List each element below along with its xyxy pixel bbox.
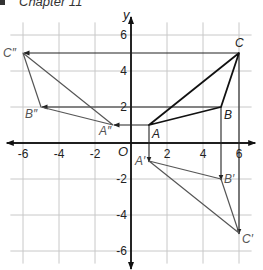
y-tick-label: 2 (120, 100, 127, 114)
y-tick-label: 4 (120, 64, 127, 78)
axes (7, 17, 255, 269)
vertex-label: B (224, 108, 232, 122)
y-tick-label: -2 (116, 172, 127, 186)
y-tick-label: -6 (116, 244, 127, 258)
x-tick-label: 6 (236, 147, 243, 161)
vertex-label: A (151, 127, 160, 141)
vertex-label: C″ (3, 46, 17, 60)
coordinate-plane: xyO-6-4-2246642-2-4-6ABCA′B′C′A″B″C″ (0, 0, 263, 270)
vertex-label: A′ (134, 154, 146, 168)
x-tick-label: -2 (90, 147, 101, 161)
y-axis-label: y (122, 7, 131, 22)
y-tick-label: -4 (116, 208, 127, 222)
vertex-label: B″ (25, 107, 38, 121)
vertex-label: A″ (98, 124, 112, 138)
x-tick-label: 4 (200, 147, 207, 161)
origin-label: O (118, 144, 128, 159)
vertex-label: C′ (242, 232, 254, 246)
y-tick-label: 6 (120, 28, 127, 42)
x-tick-label: -6 (18, 147, 29, 161)
vertex-label: C (235, 36, 244, 50)
x-tick-label: 2 (164, 147, 171, 161)
x-tick-label: -4 (54, 147, 65, 161)
vertex-label: B′ (224, 172, 235, 186)
